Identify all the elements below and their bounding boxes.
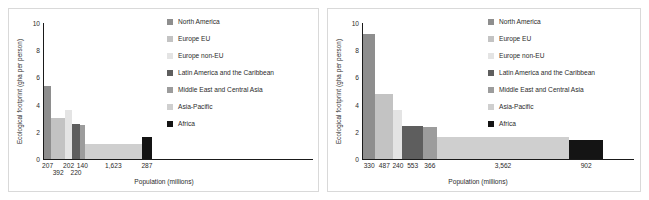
chart-panel-left: Ecological footprint (gha per person) 02… [8, 8, 319, 192]
y-tick-label: 0 [36, 156, 40, 163]
legend-item-label: Europe EU [499, 34, 531, 43]
bar-europe-eu [51, 118, 65, 159]
legend-item-label: Latin America and the Caribbean [178, 68, 274, 77]
plot-area-left [44, 23, 152, 159]
legend-item: Europe EU [488, 34, 531, 43]
legend-item-label: Europe EU [178, 34, 210, 43]
legend-item: Africa [167, 119, 195, 128]
legend-item-label: North America [499, 17, 541, 26]
legend-swatch-icon [488, 121, 494, 127]
legend-item-label: Africa [499, 119, 516, 128]
x-tick-label: 392 [53, 169, 64, 176]
legend-swatch-icon [167, 87, 173, 93]
bar-north-america [363, 34, 375, 159]
legend-swatch-icon [167, 121, 173, 127]
x-tick-label: 140 [77, 162, 88, 169]
chart-right: Ecological footprint (gha per person) 02… [328, 9, 640, 191]
x-axis-title-left: Population (millions) [134, 178, 193, 185]
x-tick-label: 202 [63, 162, 74, 169]
bar-north-america [44, 86, 51, 159]
legend-item: Europe non-EU [167, 51, 223, 60]
legend-swatch-icon [167, 19, 173, 25]
legend-swatch-icon [488, 104, 494, 110]
legend-item: Asia-Pacific [167, 102, 212, 111]
y-tick-label: 6 [36, 74, 40, 81]
legend-item: Africa [488, 119, 516, 128]
legend-item: Europe non-EU [488, 51, 544, 60]
y-axis-ticks-right: 0246810 [343, 23, 360, 159]
legend-swatch-icon [167, 104, 173, 110]
legend-swatch-icon [488, 87, 494, 93]
x-tick-label: 366 [424, 162, 435, 169]
y-tick-label: 2 [36, 128, 40, 135]
x-tick-label: 220 [71, 169, 82, 176]
legend-item: Asia-Pacific [488, 102, 533, 111]
legend-swatch-icon [488, 53, 494, 59]
y-tick-label: 4 [355, 101, 359, 108]
legend-item-label: Middle East and Central Asia [178, 85, 263, 94]
legend-item-label: North America [178, 17, 220, 26]
bar-asia-pacific [437, 137, 570, 159]
bar-latin-america-and-the-caribbean [72, 124, 80, 159]
legend-item: Middle East and Central Asia [488, 85, 584, 94]
legend-item: Latin America and the Caribbean [488, 68, 595, 77]
legend-item-label: Asia-Pacific [178, 102, 212, 111]
x-axis-line-right [362, 159, 634, 160]
bar-asia-pacific [85, 144, 142, 159]
legend-item-label: Asia-Pacific [499, 102, 533, 111]
x-tick-label: 1,623 [105, 162, 122, 169]
legend-item: Latin America and the Caribbean [167, 68, 274, 77]
bar-europe-non-eu [393, 110, 402, 159]
x-tick-label: 330 [364, 162, 375, 169]
legend-item-label: Europe non-EU [499, 51, 544, 60]
bar-europe-eu [375, 94, 393, 159]
bar-latin-america-and-the-caribbean [402, 126, 423, 159]
legend-swatch-icon [488, 70, 494, 76]
legend-item: North America [488, 17, 541, 26]
bar-europe-non-eu [65, 110, 72, 159]
x-axis-title-right: Population (millions) [448, 178, 507, 185]
x-tick-label: 207 [42, 162, 53, 169]
figure-container: Ecological footprint (gha per person) 02… [0, 0, 649, 200]
bar-middle-east-and-central-asia [423, 127, 437, 159]
legend-item: Europe EU [167, 34, 210, 43]
x-tick-label: 3,562 [495, 162, 512, 169]
chart-panel-right: Ecological footprint (gha per person) 02… [327, 8, 641, 192]
legend-item-label: Europe non-EU [178, 51, 223, 60]
x-tick-label: 553 [407, 162, 418, 169]
y-axis-ticks-left: 0246810 [24, 23, 41, 159]
bar-africa [142, 137, 152, 159]
y-tick-label: 6 [355, 74, 359, 81]
legend-swatch-icon [488, 19, 494, 25]
y-tick-label: 8 [355, 47, 359, 54]
legend-item-label: Middle East and Central Asia [499, 85, 584, 94]
legend-swatch-icon [167, 70, 173, 76]
x-axis-line-left [43, 159, 313, 160]
chart-left: Ecological footprint (gha per person) 02… [9, 9, 318, 191]
x-tick-label: 487 [379, 162, 390, 169]
y-tick-label: 2 [355, 128, 359, 135]
x-tick-label: 287 [141, 162, 152, 169]
legend-item-label: Africa [178, 119, 195, 128]
legend-swatch-icon [167, 36, 173, 42]
legend-item-label: Latin America and the Caribbean [499, 68, 595, 77]
x-tick-label: 902 [581, 162, 592, 169]
y-tick-label: 0 [355, 156, 359, 163]
y-tick-label: 8 [36, 47, 40, 54]
legend-swatch-icon [167, 53, 173, 59]
y-tick-label: 10 [352, 20, 359, 27]
x-tick-label: 240 [392, 162, 403, 169]
legend-item: North America [167, 17, 220, 26]
y-tick-label: 10 [33, 20, 40, 27]
legend-item: Middle East and Central Asia [167, 85, 263, 94]
bar-africa [569, 140, 603, 159]
legend-swatch-icon [488, 36, 494, 42]
y-tick-label: 4 [36, 101, 40, 108]
